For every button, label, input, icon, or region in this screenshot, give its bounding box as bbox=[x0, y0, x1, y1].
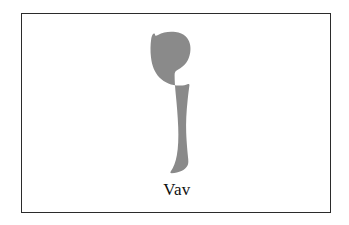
page-background: Vav bbox=[0, 0, 349, 225]
vav-glyph-svg bbox=[142, 28, 212, 176]
flashcard-content: Vav bbox=[22, 14, 330, 212]
vav-glyph-path bbox=[150, 32, 190, 173]
hebrew-letter-vav-icon bbox=[142, 28, 212, 176]
letter-name-label: Vav bbox=[22, 180, 332, 200]
flashcard-frame: Vav bbox=[21, 13, 331, 213]
